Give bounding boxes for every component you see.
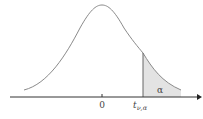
x-axis-arrow-icon — [197, 94, 202, 100]
origin-label: 0 — [99, 100, 105, 110]
tail-area-label: α — [157, 85, 163, 95]
critical-value-sub: ν,α — [137, 104, 148, 112]
critical-value-label: tν,α — [133, 100, 148, 112]
t-distribution-diagram: 0 tν,α α — [0, 0, 203, 119]
